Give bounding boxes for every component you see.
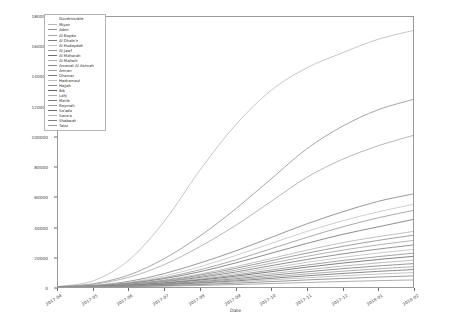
- legend-swatch: [48, 115, 57, 116]
- legend-item: Taizz: [47, 123, 103, 128]
- x-axis-tick-label: 2017-11: [294, 293, 312, 307]
- series-line: [58, 220, 413, 287]
- legend-item-label: Taizz: [59, 123, 68, 128]
- x-axis-tick-label: 2017-05: [80, 293, 98, 307]
- y-axis-tick-label: 0: [45, 286, 48, 291]
- legend-swatch: [48, 80, 57, 81]
- y-axis-tick-label: 60000: [34, 195, 48, 200]
- legend-swatch: [48, 95, 57, 96]
- legend-swatch: [48, 70, 57, 71]
- legend: Governorate MiyanAdenAl BaydaAl Dhale'eA…: [44, 14, 106, 131]
- x-axis-tick-label: 2017-07: [152, 293, 170, 307]
- legend-swatch: [48, 60, 57, 61]
- x-axis-tick-mark: [57, 288, 58, 291]
- x-axis-tick-label: 2018-02: [402, 293, 420, 307]
- chart-figure: 0200004000060000800001000001200001400001…: [0, 0, 471, 326]
- legend-swatch: [48, 55, 57, 56]
- legend-title: Governorate: [59, 17, 103, 21]
- legend-swatch: [48, 90, 57, 91]
- series-line: [58, 194, 413, 287]
- legend-swatch: [48, 75, 57, 76]
- series-line: [58, 205, 413, 287]
- x-axis-tick-label: 2017-04: [45, 293, 63, 307]
- legend-swatch: [48, 85, 57, 86]
- x-axis-tick-mark: [236, 288, 237, 291]
- x-axis-tick-mark: [271, 288, 272, 291]
- x-axis-tick-mark: [93, 288, 94, 291]
- y-axis-tick-label: 40000: [34, 225, 48, 230]
- series-line: [58, 210, 413, 286]
- legend-swatch: [48, 24, 57, 25]
- x-axis-tick-label: 2017-12: [330, 293, 348, 307]
- legend-swatch: [48, 45, 57, 46]
- series-line: [58, 136, 413, 287]
- x-axis-tick-label: 2017-08: [187, 293, 205, 307]
- x-axis-tick-mark: [128, 288, 129, 291]
- legend-swatch: [48, 35, 57, 36]
- x-axis-tick-mark: [164, 288, 165, 291]
- legend-items: MiyanAdenAl BaydaAl Dhale'eAl HudaydahAl…: [47, 22, 103, 128]
- x-axis-tick-mark: [414, 288, 415, 291]
- x-axis: 2017-042017-052017-062017-072017-082017-…: [57, 288, 414, 326]
- x-axis-label: Date: [57, 308, 414, 313]
- legend-swatch: [48, 100, 57, 101]
- y-axis-tick-label: 100000: [31, 134, 48, 139]
- y-axis-tick-label: 20000: [34, 255, 48, 260]
- legend-swatch: [48, 65, 57, 66]
- x-axis-tick-label: 2017-06: [116, 293, 134, 307]
- plot-area: [57, 16, 414, 288]
- x-axis-tick-mark: [343, 288, 344, 291]
- y-axis-tick-label: 80000: [34, 165, 48, 170]
- x-axis-tick-label: 2017-09: [223, 293, 241, 307]
- legend-swatch: [48, 29, 57, 30]
- x-axis-tick-mark: [200, 288, 201, 291]
- x-axis-tick-label: 2018-01: [366, 293, 384, 307]
- x-axis-tick-label: 2017-10: [259, 293, 277, 307]
- legend-swatch: [48, 125, 57, 126]
- legend-swatch: [48, 110, 57, 111]
- series-line: [58, 31, 413, 287]
- legend-swatch: [48, 105, 57, 106]
- series-lines: [58, 17, 413, 287]
- legend-swatch: [48, 120, 57, 121]
- x-axis-tick-mark: [307, 288, 308, 291]
- x-axis-tick-mark: [378, 288, 379, 291]
- legend-swatch: [48, 40, 57, 41]
- legend-swatch: [48, 50, 57, 51]
